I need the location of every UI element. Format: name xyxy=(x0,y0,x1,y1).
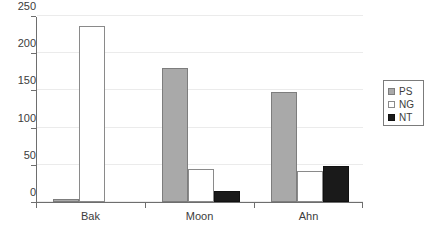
x-axis-tick-mark xyxy=(362,203,363,208)
bar-moon-nt xyxy=(214,191,240,202)
x-axis-tick-mark xyxy=(145,203,146,208)
y-axis: 050100150200250 xyxy=(0,17,36,203)
y-axis-tick-label: 50 xyxy=(6,150,36,161)
bar-bak-ps xyxy=(53,199,79,202)
legend: PSNGNT xyxy=(383,80,424,126)
bar-bak-ng xyxy=(79,26,105,202)
bar-ahn-ps xyxy=(271,92,297,202)
x-axis-category-label: Ahn xyxy=(299,210,319,223)
legend-label: NG xyxy=(399,99,414,110)
x-axis-category-label: Bak xyxy=(81,210,100,223)
legend-swatch-icon xyxy=(388,88,395,95)
y-axis-tick-label: 0 xyxy=(6,187,36,198)
legend-label: NT xyxy=(399,112,412,123)
bar-chart: 050100150200250 BakMoonAhn PSNGNT xyxy=(0,0,431,231)
y-axis-tick-label: 100 xyxy=(6,113,36,124)
x-axis-category-label: Moon xyxy=(186,210,214,223)
y-axis-tick-label: 250 xyxy=(6,1,36,12)
bar-ahn-ng xyxy=(297,171,323,202)
x-axis-tick-mark xyxy=(254,203,255,208)
legend-swatch-icon xyxy=(388,114,395,121)
legend-item-ps[interactable]: PS xyxy=(388,85,423,98)
x-axis-tick-mark xyxy=(36,203,37,208)
gridline xyxy=(37,15,363,16)
y-axis-tick-label: 200 xyxy=(6,38,36,49)
bar-moon-ng xyxy=(188,169,214,202)
x-axis: BakMoonAhn xyxy=(36,203,363,231)
y-axis-tick-label: 150 xyxy=(6,75,36,86)
plot-area xyxy=(36,17,363,203)
legend-label: PS xyxy=(399,86,412,97)
legend-swatch-icon xyxy=(388,101,395,108)
bar-ahn-nt xyxy=(323,166,349,202)
legend-item-nt[interactable]: NT xyxy=(388,111,423,124)
legend-item-ng[interactable]: NG xyxy=(388,98,423,111)
bar-moon-ps xyxy=(162,68,188,202)
